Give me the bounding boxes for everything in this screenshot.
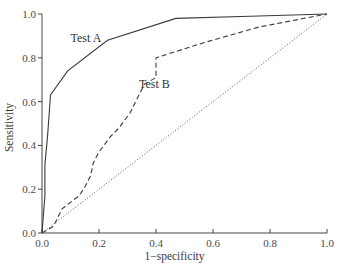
series-label-test-b: Test B xyxy=(139,77,170,91)
series-group xyxy=(42,14,327,233)
x-tick-label: 1.0 xyxy=(320,237,334,249)
y-tick-label: 0.6 xyxy=(22,96,36,108)
x-axis-title: 1−specificity xyxy=(144,250,204,263)
y-tick-label: 0.8 xyxy=(22,52,36,64)
y-tick-label: 0.0 xyxy=(22,227,36,239)
series-line-test-a xyxy=(42,14,327,233)
series-line-chance-diagonal xyxy=(42,14,327,233)
y-tick-label: 0.4 xyxy=(22,139,36,151)
x-tick-label: 0.4 xyxy=(149,237,163,249)
labels-group: Test ATest B xyxy=(71,31,170,91)
y-axis-title: Sensitivity xyxy=(3,103,16,152)
y-tick-label: 0.2 xyxy=(22,183,36,195)
x-tick-label: 0.8 xyxy=(263,237,277,249)
y-tick-label: 1.0 xyxy=(22,8,36,20)
x-tick-label: 0.6 xyxy=(206,237,220,249)
roc-chart: 0.00.20.40.60.81.00.00.20.40.60.81.01−sp… xyxy=(0,0,341,271)
series-label-test-a: Test A xyxy=(71,31,102,45)
x-tick-label: 0.2 xyxy=(92,237,106,249)
x-tick-label: 0.0 xyxy=(35,237,49,249)
series-line-test-b xyxy=(42,14,327,233)
